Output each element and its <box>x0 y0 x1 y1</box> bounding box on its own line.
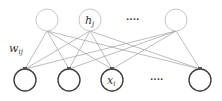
weight-edge <box>69 31 90 69</box>
weight-edges <box>25 31 200 69</box>
visible-layer: xi <box>14 67 211 91</box>
weight-edge <box>176 31 200 69</box>
arrowhead-marker <box>198 67 202 70</box>
visible-node <box>58 69 80 91</box>
weight-edge <box>25 31 90 69</box>
weight-edge <box>69 31 176 69</box>
rbm-diagram: hj xi ···· ···· wij <box>0 0 222 101</box>
arrowhead-marker <box>23 67 27 70</box>
visible-ellipsis: ···· <box>150 74 163 85</box>
visible-node <box>14 69 36 91</box>
arrowhead-marker <box>67 67 71 70</box>
hidden-ellipsis: ···· <box>126 14 139 25</box>
hidden-node <box>165 9 187 31</box>
weight-edge <box>25 31 47 69</box>
arrowhead-marker <box>110 67 114 70</box>
visible-node <box>189 69 211 91</box>
weight-edge <box>90 31 200 69</box>
weight-label: wij <box>9 42 24 56</box>
hidden-layer: hj <box>36 9 187 31</box>
weight-edge <box>25 31 176 69</box>
hidden-node <box>36 9 58 31</box>
